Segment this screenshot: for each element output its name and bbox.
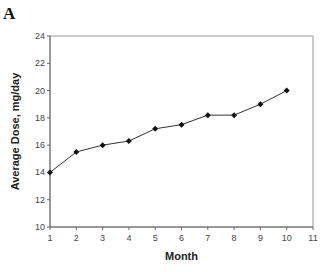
data-point-marker <box>231 112 237 118</box>
x-tick-label: 9 <box>258 233 263 243</box>
data-line <box>50 91 287 173</box>
y-tick-label: 10 <box>35 222 45 232</box>
data-point-marker <box>179 122 185 128</box>
y-tick-label: 18 <box>35 113 45 123</box>
data-point-marker <box>100 142 106 148</box>
data-point-marker <box>205 112 211 118</box>
data-point-marker <box>284 88 290 94</box>
x-tick-label: 11 <box>308 233 317 243</box>
x-tick-label: 7 <box>205 233 210 243</box>
x-tick-label: 6 <box>179 233 184 243</box>
y-tick-label: 12 <box>35 195 45 205</box>
y-tick-label: 20 <box>35 86 45 96</box>
x-tick-label: 3 <box>100 233 105 243</box>
x-tick-label: 10 <box>282 233 292 243</box>
x-tick-label: 5 <box>153 233 158 243</box>
data-point-marker <box>126 138 132 144</box>
y-tick-label: 24 <box>35 31 45 41</box>
line-chart: 10121416182022241234567891011MonthAverag… <box>0 0 332 272</box>
y-axis-label: Average Dose, mg/day <box>9 72 21 190</box>
y-tick-label: 22 <box>35 58 45 68</box>
x-tick-label: 1 <box>47 233 52 243</box>
x-tick-label: 2 <box>74 233 79 243</box>
x-axis-label: Month <box>165 250 198 262</box>
plot-frame <box>50 36 313 227</box>
y-tick-label: 14 <box>35 167 45 177</box>
x-tick-label: 4 <box>126 233 131 243</box>
data-point-marker <box>257 101 263 107</box>
y-tick-label: 16 <box>35 140 45 150</box>
x-tick-label: 8 <box>232 233 237 243</box>
data-point-marker <box>152 126 158 132</box>
